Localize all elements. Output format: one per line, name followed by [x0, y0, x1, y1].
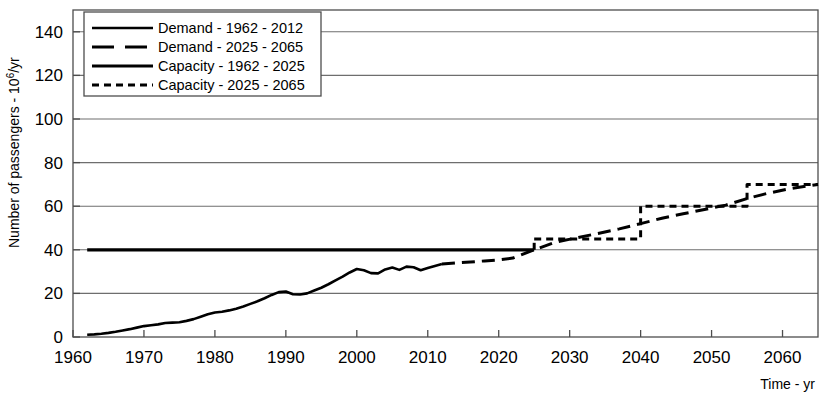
y-tick-label-20: 20	[44, 284, 63, 303]
y-tick-label-60: 60	[44, 197, 63, 216]
x-tick-label-2060: 2060	[764, 348, 802, 367]
y-axis-title: Number of passengers - 106/yr	[5, 57, 22, 248]
x-tick-label-2040: 2040	[622, 348, 660, 367]
x-tick-label-1970: 1970	[125, 348, 163, 367]
chart-legend: Demand - 1962 - 2012Demand - 2025 - 2065…	[84, 12, 321, 96]
y-tick-label-80: 80	[44, 154, 63, 173]
y-tick-label-120: 120	[35, 66, 63, 85]
passenger-demand-capacity-chart: 020406080100120140 196019701980199020002…	[0, 0, 826, 416]
x-tick-label-1980: 1980	[196, 348, 234, 367]
legend-label-3: Capacity - 2025 - 2065	[158, 77, 305, 93]
x-tick-label-1960: 1960	[54, 348, 92, 367]
x-tick-label-2030: 2030	[551, 348, 589, 367]
y-tick-label-0: 0	[54, 328, 63, 347]
x-tick-label-2000: 2000	[338, 348, 376, 367]
legend-label-1: Demand - 2025 - 2065	[158, 39, 303, 55]
x-tick-label-2050: 2050	[693, 348, 731, 367]
legend-label-2: Capacity - 1962 - 2025	[158, 58, 305, 74]
y-tick-label-100: 100	[35, 110, 63, 129]
x-tick-label-2020: 2020	[480, 348, 518, 367]
y-tick-label-40: 40	[44, 241, 63, 260]
chart-figure: 020406080100120140 196019701980199020002…	[0, 0, 826, 416]
x-tick-label-1990: 1990	[267, 348, 305, 367]
legend-label-0: Demand - 1962 - 2012	[158, 20, 303, 36]
x-tick-label-2010: 2010	[409, 348, 447, 367]
x-axis-title: Time - yr	[760, 376, 815, 392]
y-tick-label-140: 140	[35, 23, 63, 42]
